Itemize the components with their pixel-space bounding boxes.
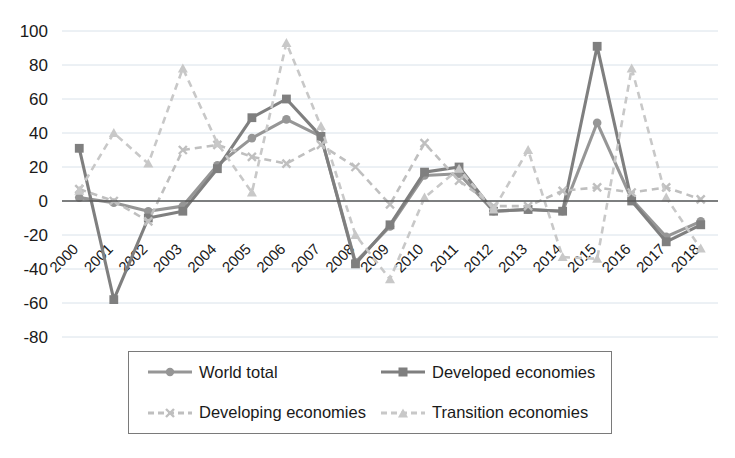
x-axis-tick-label: 2000 <box>46 240 82 276</box>
square-marker-icon <box>380 365 426 379</box>
data-point-marker <box>178 207 187 216</box>
data-point-marker <box>385 274 395 283</box>
x-axis-tick-label: 2011 <box>426 240 461 275</box>
legend-label-world-total: World total <box>199 363 278 382</box>
data-point-marker <box>281 38 291 47</box>
y-axis-tick-label: 20 <box>29 158 48 177</box>
y-axis-tick-label: 40 <box>29 124 48 143</box>
legend-label-developed-economies: Developed economies <box>432 363 595 382</box>
x-axis-tick-label: 2003 <box>149 240 185 276</box>
x-axis-tick-label: 2005 <box>218 240 254 276</box>
data-point-marker <box>248 134 257 143</box>
legend-item-developing-economies[interactable]: Developing economies <box>129 403 370 422</box>
data-point-marker <box>420 168 429 177</box>
series-line <box>79 143 700 221</box>
legend-item-world-total[interactable]: World total <box>129 363 370 382</box>
chart-container: 100806040200-20-40-60-80 200020012002200… <box>0 0 735 458</box>
legend-item-transition-economies[interactable]: Transition economies <box>370 403 611 422</box>
data-point-marker <box>593 42 602 51</box>
legend-label-transition-economies: Transition economies <box>432 403 588 422</box>
x-axis-tick-label: 2013 <box>495 240 531 276</box>
data-point-marker <box>386 220 395 229</box>
x-marker-icon <box>147 406 193 420</box>
y-axis-tick-label: -80 <box>23 328 48 347</box>
x-axis-tick-label: 2016 <box>598 240 634 276</box>
x-axis-tick-label: 2007 <box>287 240 323 276</box>
legend-label-developing-economies: Developing economies <box>199 403 366 422</box>
data-point-marker <box>213 164 222 173</box>
x-axis-tick-label: 2006 <box>253 240 289 276</box>
x-axis-tick-label: 2010 <box>391 240 427 276</box>
data-point-marker <box>282 115 291 124</box>
data-point-marker <box>558 207 567 216</box>
data-point-marker <box>696 220 705 229</box>
data-point-marker <box>282 95 291 104</box>
gridlines <box>62 31 718 337</box>
y-axis-tick-label: 0 <box>39 192 48 211</box>
data-point-marker <box>316 121 326 130</box>
y-axis-tick-label: 60 <box>29 90 48 109</box>
data-point-marker <box>282 160 290 168</box>
data-point-marker <box>75 144 84 153</box>
x-axis-tick-label: 2018 <box>667 240 703 276</box>
y-axis-tick-label: -60 <box>23 294 48 313</box>
data-point-marker <box>421 139 429 147</box>
y-axis-tick-labels: 100806040200-20-40-60-80 <box>20 22 48 347</box>
y-axis-tick-label: 80 <box>29 56 48 75</box>
chart-legend: World total Developed economies Developi… <box>128 351 612 434</box>
data-point-marker <box>247 113 256 122</box>
x-axis-tick-label: 2012 <box>460 240 496 276</box>
data-point-marker <box>662 237 671 246</box>
y-axis-tick-label: -20 <box>23 226 48 245</box>
data-point-marker <box>351 260 360 269</box>
legend-item-developed-economies[interactable]: Developed economies <box>370 363 611 382</box>
y-axis-tick-label: 100 <box>20 22 48 41</box>
triangle-marker-icon <box>380 406 426 420</box>
x-axis-tick-label: 2001 <box>80 240 116 276</box>
data-point-marker <box>109 295 118 304</box>
circle-marker-icon <box>147 365 193 379</box>
data-point-marker <box>593 119 602 128</box>
x-axis-tick-label: 2004 <box>184 240 220 276</box>
data-point-marker <box>523 145 533 154</box>
y-axis-tick-label: -40 <box>23 260 48 279</box>
